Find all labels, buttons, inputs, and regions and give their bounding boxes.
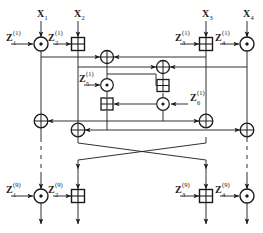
op-xor-4-xor-icon [199, 114, 213, 128]
label-z1f-sup: (9) [13, 181, 21, 189]
label-x1-sub: 1 [45, 14, 48, 21]
op-mul-3-multiply-mod-icon [101, 79, 114, 92]
label-z2f: Z 2 (9) [48, 181, 63, 198]
label-x2: X 2 [74, 8, 85, 21]
label-z4f-sup: (9) [222, 181, 230, 189]
label-z6-sub: 6 [197, 99, 201, 106]
label-z1-sub: 1 [13, 39, 16, 46]
label-z1f-sub: 1 [13, 191, 16, 198]
op-xor-3-xor-icon [34, 114, 48, 128]
ma-mul3-to-add3 [107, 74, 156, 86]
diagram-canvas: X 1 X 2 X 3 X 4 Z 1 (1) Z 2 (1) Z 3 (1) … [0, 0, 263, 233]
op-xor-1-xor-icon [101, 51, 114, 64]
label-z1-base: Z [6, 32, 13, 43]
label-z3: Z 3 (1) [175, 29, 190, 46]
op-mul-1-multiply-mod-icon [34, 37, 48, 51]
label-z2-sub: 2 [55, 39, 58, 46]
label-x2-sub: 2 [82, 14, 85, 21]
op-xor-2-xor-icon [157, 61, 170, 74]
op-xor-6-xor-icon [240, 123, 254, 137]
crossover-right-to-left [78, 137, 206, 169]
crossover-left-to-right [78, 137, 206, 169]
op-add-2-add-mod-icon [200, 38, 213, 51]
label-z3f-sup: (9) [182, 181, 190, 189]
label-z2-sup: (1) [55, 29, 63, 37]
label-z4: Z 4 (1) [215, 29, 230, 46]
label-z3f-base: Z [175, 184, 182, 195]
label-x1: X 1 [37, 8, 48, 21]
op-add-1-add-mod-icon [72, 38, 85, 51]
label-z3-base: Z [175, 32, 182, 43]
op-add-5-add-mod-icon [72, 190, 85, 203]
label-z6-sup: (1) [197, 89, 205, 97]
op-mul-2-multiply-mod-icon [240, 37, 254, 51]
label-z2f-sup: (9) [55, 181, 63, 189]
label-z5: Z 5 (1) [79, 70, 94, 87]
op-mul-6-multiply-mod-icon [240, 189, 254, 203]
label-z2-base: Z [48, 32, 55, 43]
idea-cipher-diagram: X 1 X 2 X 3 X 4 Z 1 (1) Z 2 (1) Z 3 (1) … [0, 0, 263, 233]
op-add-3-add-mod-icon [157, 80, 169, 92]
op-add-4-add-mod-icon [101, 98, 113, 110]
label-z2f-sub: 2 [55, 191, 58, 198]
label-z4f: Z 4 (9) [215, 181, 230, 198]
label-z1: Z 1 (1) [6, 29, 21, 46]
label-z5-sub: 5 [86, 80, 89, 87]
label-z1f-base: Z [6, 184, 13, 195]
label-z6-base: Z [190, 92, 197, 103]
label-z4-sup: (1) [222, 29, 230, 37]
label-z3f: Z 3 (9) [175, 181, 190, 198]
label-x4-sub: 4 [251, 14, 255, 21]
op-mul-4-multiply-mod-icon [157, 98, 170, 111]
op-xor-5-xor-icon [71, 123, 85, 137]
label-z5-sup: (1) [86, 70, 94, 78]
label-z2f-base: Z [48, 184, 55, 195]
label-z1f: Z 1 (9) [6, 181, 21, 198]
label-z4-base: Z [215, 32, 222, 43]
label-x3: X 3 [202, 8, 213, 21]
label-z3f-sub: 3 [182, 191, 185, 198]
label-x4: X 4 [243, 8, 255, 21]
label-z3-sub: 3 [182, 39, 185, 46]
label-z6: Z 6 (1) [190, 89, 205, 106]
label-z5-base: Z [79, 73, 86, 84]
label-z1-sup: (1) [13, 29, 21, 37]
label-z3-sup: (1) [182, 29, 190, 37]
op-add-6-add-mod-icon [200, 190, 213, 203]
label-x3-sub: 3 [210, 14, 213, 21]
label-z2: Z 2 (1) [48, 29, 63, 46]
op-mul-5-multiply-mod-icon [34, 189, 48, 203]
label-z4f-base: Z [215, 184, 222, 195]
